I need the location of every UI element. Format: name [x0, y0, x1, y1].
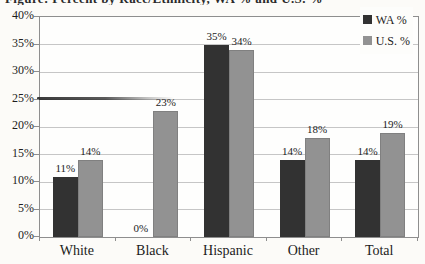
value-label: 0%	[134, 223, 149, 234]
y-tick-label: 5%	[0, 202, 34, 215]
bar-us-total	[380, 133, 405, 238]
category-label-total: Total	[365, 243, 394, 258]
bar-wa-hispanic	[204, 45, 229, 238]
category-label-black: Black	[136, 243, 169, 258]
x-axis-tick	[190, 237, 191, 241]
legend-swatch-us-icon	[363, 36, 372, 45]
bar-us-other	[305, 138, 330, 237]
bar-us-black	[153, 111, 178, 238]
legend-swatch-wa-icon	[363, 15, 372, 24]
value-label: 34%	[231, 36, 251, 47]
value-label: 14%	[282, 146, 302, 157]
scanned-bar-chart-figure: Figure: Percent by Race/Ethnicity, WA % …	[0, 0, 425, 264]
y-tick-label: 0%	[0, 229, 34, 242]
legend: WA % U.S. %	[360, 7, 413, 54]
bar-us-white	[78, 160, 103, 237]
y-tick-label: 20%	[0, 119, 34, 132]
scan-smudge-line	[37, 97, 174, 100]
value-label: 14%	[80, 146, 100, 157]
y-axis-tick	[34, 16, 39, 17]
y-tick-label: 10%	[0, 174, 34, 187]
legend-label-us: U.S. %	[376, 35, 410, 47]
bar-us-hispanic	[229, 50, 254, 237]
bar-wa-white	[53, 177, 78, 238]
legend-item-us: U.S. %	[363, 30, 410, 51]
category-label-other: Other	[288, 243, 320, 258]
value-label: 11%	[55, 163, 75, 174]
x-axis-tick	[341, 237, 342, 241]
bar-wa-total	[355, 160, 380, 237]
category-label-white: White	[60, 243, 94, 258]
chart-area: 11%14%0%23%35%34%14%18%14%19% WA % U.S. …	[0, 0, 425, 264]
y-tick-label: 30%	[0, 64, 34, 77]
y-axis-tick	[34, 126, 39, 127]
y-axis-tick	[34, 44, 39, 45]
y-axis-tick	[34, 154, 39, 155]
category-label-hispanic: Hispanic	[203, 243, 253, 258]
y-axis-tick	[34, 71, 39, 72]
bar-wa-other	[280, 160, 305, 237]
value-label: 18%	[307, 124, 327, 135]
y-tick-label: 15%	[0, 147, 34, 160]
value-label: 14%	[358, 146, 378, 157]
x-axis-tick	[39, 237, 40, 241]
y-axis-tick	[34, 209, 39, 210]
legend-label-wa: WA %	[376, 14, 407, 26]
y-tick-label: 40%	[0, 9, 34, 22]
x-axis-tick	[266, 237, 267, 241]
value-label: 19%	[383, 119, 403, 130]
legend-item-wa: WA %	[363, 9, 410, 30]
x-axis-tick	[417, 237, 418, 241]
value-label: 35%	[206, 31, 226, 42]
x-axis-tick	[115, 237, 116, 241]
y-axis-tick	[34, 181, 39, 182]
y-tick-label: 35%	[0, 37, 34, 50]
y-axis-tick	[34, 99, 39, 100]
y-tick-label: 25%	[0, 92, 34, 105]
